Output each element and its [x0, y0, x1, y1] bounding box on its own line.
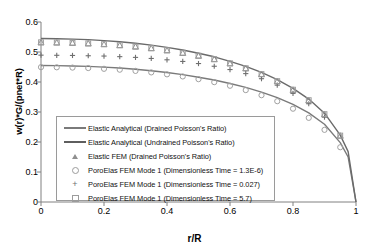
- legend-label: Elastic FEM (Drained Poisson's Ratio): [88, 152, 211, 161]
- triangle-marker-icon: [62, 149, 88, 163]
- legend-label: PoroElas FEM Mode 1 (Dimensionless Time …: [88, 180, 260, 189]
- legend-item-poroelas-13e6: PoroElas FEM Mode 1 (Dimensionless Time …: [57, 163, 274, 177]
- plus-marker-icon: +: [62, 177, 88, 191]
- legend-item-elastic-analytical-undrained: Elastic Analytical (Undrained Poisson's …: [57, 135, 274, 149]
- legend-label: PoroElas FEM Mode 1 (Dimensionless Time …: [88, 166, 263, 175]
- square-marker-icon: [62, 191, 88, 205]
- chart-container: w(r)*G/(pnet*R) 0.6 0.5 0.4 0.3 0.2 0.1 …: [0, 0, 389, 252]
- legend-label: PoroElas FEM Mode 1 (Dimensionless Time …: [88, 194, 252, 203]
- legend-item-elastic-fem-drained: Elastic FEM (Drained Poisson's Ratio): [57, 149, 274, 163]
- legend-item-poroelas-57: PoroElas FEM Mode 1 (Dimensionless Time …: [57, 191, 274, 205]
- legend-label: Elastic Analytical (Undrained Poisson's …: [88, 138, 235, 147]
- line-swatch-icon: [62, 121, 88, 135]
- legend-item-elastic-analytical-drained: Elastic Analytical (Drained Poisson's Ra…: [57, 121, 274, 135]
- line-swatch-icon: [62, 135, 88, 149]
- legend-label: Elastic Analytical (Drained Poisson's Ra…: [88, 124, 226, 133]
- circle-marker-icon: [62, 163, 88, 177]
- legend-item-poroelas-0027: + PoroElas FEM Mode 1 (Dimensionless Tim…: [57, 177, 274, 191]
- chart-legend: Elastic Analytical (Drained Poisson's Ra…: [56, 116, 275, 201]
